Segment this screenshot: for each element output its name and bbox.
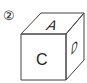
right-face-letter: D <box>71 36 78 58</box>
figure-number: ② <box>3 8 15 23</box>
top-face-letter: A <box>44 17 59 33</box>
front-face-letter: C <box>36 51 48 68</box>
cube-diagram: ② A C D <box>0 0 87 83</box>
